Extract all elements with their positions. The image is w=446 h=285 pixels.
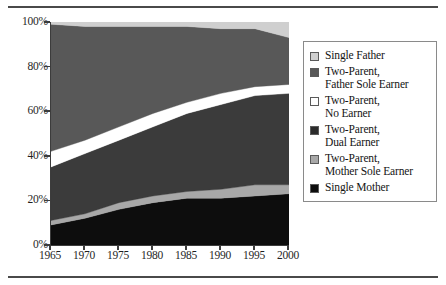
x-tick-mark	[253, 245, 255, 250]
legend-item-label-line2: Mother Sole Earner	[325, 165, 413, 178]
legend-item-label-line2: Father Sole Earner	[325, 78, 409, 91]
bottom-horizontal-rule	[8, 276, 438, 278]
legend-item[interactable]: Single Father	[310, 49, 430, 62]
y-tick-label: 80%	[2, 61, 48, 73]
legend-item-label: Single Mother	[325, 181, 389, 194]
stacked-area-svg	[51, 22, 289, 245]
legend-item[interactable]: Two-Parent,No Earner	[310, 94, 430, 120]
legend-item[interactable]: Two-Parent,Mother Sole Earner	[310, 152, 430, 178]
x-tick-label: 2000	[268, 250, 308, 262]
legend-item[interactable]: Two-Parent,Dual Earner	[310, 123, 430, 149]
legend-swatch-icon	[310, 52, 319, 61]
legend-swatch-icon	[310, 126, 319, 135]
x-tick-mark	[219, 245, 221, 250]
x-tick-mark	[49, 245, 51, 250]
legend-item[interactable]: Single Mother	[310, 181, 430, 194]
x-tick-mark	[287, 245, 289, 250]
legend-item-label: Two-Parent,No Earner	[325, 94, 380, 120]
legend-item-label: Two-Parent,Dual Earner	[325, 123, 380, 149]
chart-area: 0%20%40%60%80%100% 196519701975198019851…	[0, 14, 300, 264]
legend-swatch-icon	[310, 184, 319, 193]
x-tick-mark	[83, 245, 85, 250]
legend-swatch-icon	[310, 155, 319, 164]
legend-swatch-icon	[310, 68, 319, 77]
legend-item-label: Two-Parent,Father Sole Earner	[325, 65, 409, 91]
x-tick-mark	[151, 245, 153, 250]
stacked-area-plot	[50, 22, 289, 246]
legend-item[interactable]: Two-Parent,Father Sole Earner	[310, 65, 430, 91]
y-tick-label: 100%	[2, 16, 48, 28]
y-tick-label: 60%	[2, 105, 48, 117]
x-tick-mark	[117, 245, 119, 250]
legend-item-label-line2: No Earner	[325, 107, 380, 120]
chart-legend: Single FatherTwo-Parent,Father Sole Earn…	[303, 41, 437, 202]
legend-item-label: Two-Parent,Mother Sole Earner	[325, 152, 413, 178]
y-tick-label: 20%	[2, 194, 48, 206]
legend-swatch-icon	[310, 97, 319, 106]
x-tick-mark	[185, 245, 187, 250]
top-horizontal-rule	[8, 6, 438, 8]
legend-item-label-line2: Dual Earner	[325, 136, 380, 149]
y-tick-label: 40%	[2, 150, 48, 162]
legend-item-label: Single Father	[325, 49, 385, 62]
figure-root: 0%20%40%60%80%100% 196519701975198019851…	[0, 0, 446, 285]
